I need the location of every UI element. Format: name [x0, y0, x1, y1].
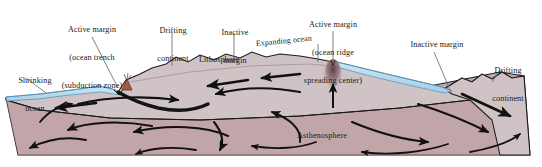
label-lithosphere: Lithosphere: [186, 55, 252, 64]
label-asthenosphere: Asthenosphere: [282, 131, 362, 140]
plate-tectonics-diagram: Shrinking ocean Active margin (ocean tre…: [0, 0, 542, 167]
label-line: Active margin: [277, 20, 389, 29]
label-active-margin-trench: Active margin (ocean trench (subduction …: [36, 7, 148, 108]
label-line: spreading center): [277, 76, 389, 85]
label-drifting-continent-right: Drifting continent: [478, 48, 538, 122]
label-line: Drifting: [142, 26, 204, 35]
label-line: Active margin: [36, 25, 148, 34]
label-line: (subduction zone): [36, 81, 148, 90]
label-line: Inactive: [206, 28, 264, 37]
label-line: continent: [478, 94, 538, 103]
label-drifting-continent-left: Drifting continent: [142, 8, 204, 82]
label-active-margin-ridge: Active margin (ocean ridge spreading cen…: [277, 2, 389, 103]
label-line: (ocean ridge: [277, 48, 389, 57]
label-inactive-margin-right: Inactive margin: [396, 40, 478, 49]
label-line: (ocean trench: [36, 53, 148, 62]
label-line: Drifting: [478, 66, 538, 75]
